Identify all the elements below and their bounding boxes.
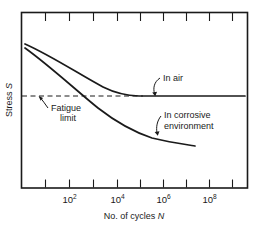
in-air-leader [152, 78, 160, 96]
curve-in-air [25, 44, 245, 96]
x-tick-label-3: 108 [202, 193, 217, 205]
annotation-fatigue-limit-line2: limit [60, 113, 76, 123]
x-axis-title: No. of cycles N [104, 211, 165, 221]
annotation-in-air: In air [163, 73, 183, 83]
annotation-fatigue-limit-line1: Fatigue [51, 103, 81, 113]
chart-canvas: 102 104 106 108 No. of cycles N Stress S… [0, 0, 261, 228]
bottom-tick-marks [46, 180, 233, 188]
x-tick-label-1: 104 [110, 193, 125, 205]
annotation-in-corrosive-environment-line1: In corrosive [164, 110, 211, 120]
curve-in-corrosive-environment [25, 48, 195, 146]
fatigue-limit-leader [39, 96, 48, 108]
x-tick-label-2: 106 [156, 193, 171, 205]
in-corrosive-environment-leader [155, 116, 161, 136]
annotation-in-corrosive-environment-line2: environment [164, 121, 214, 131]
top-tick-marks [46, 13, 233, 21]
fatigue-s-n-curve-figure: 102 104 106 108 No. of cycles N Stress S… [0, 0, 261, 228]
y-axis-title: Stress S [4, 83, 14, 117]
plot-frame [22, 13, 248, 189]
x-tick-label-0: 102 [62, 193, 77, 205]
